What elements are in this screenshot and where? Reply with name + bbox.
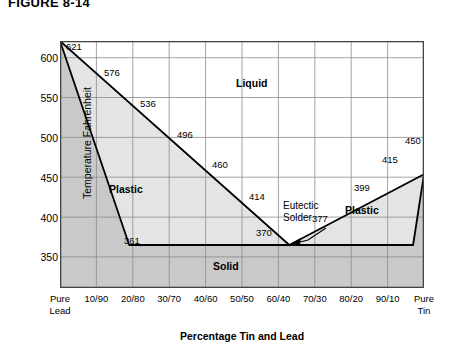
value-label-576: 576 (104, 67, 120, 78)
value-label-450: 450 (405, 135, 421, 146)
figure-title: FIGURE 8-14 (8, 0, 90, 10)
value-label-414: 414 (249, 191, 265, 202)
y-tick-label-400: 400 (18, 213, 58, 224)
region-label-plastic-right: Plastic (345, 204, 379, 216)
value-label-621: 621 (66, 41, 82, 52)
y-tick-label-600: 600 (18, 53, 58, 64)
region-label-plastic-left: Plastic (109, 183, 143, 195)
y-tick-label-450: 450 (18, 173, 58, 184)
value-label-377: 377 (312, 213, 328, 224)
y-axis-title: Temperature Fahrenheit (81, 58, 93, 228)
y-tick-label-550: 550 (18, 93, 58, 104)
region-label-liquid: Liquid (236, 77, 268, 89)
value-label-399: 399 (354, 182, 370, 193)
value-label-361: 361 (124, 235, 140, 246)
phase-diagram-plot: Temperature Fahrenheit 350 400 450 500 5… (60, 41, 424, 288)
value-label-460: 460 (212, 159, 228, 170)
value-label-496: 496 (177, 129, 193, 140)
value-label-370: 370 (256, 227, 272, 238)
x-tick-label-pure-tin: Pure Tin (396, 293, 452, 316)
region-label-solid: Solid (213, 260, 239, 272)
value-label-536: 536 (140, 98, 156, 109)
value-label-415: 415 (382, 154, 398, 165)
y-tick-label-500: 500 (18, 133, 58, 144)
x-axis-title: Percentage Tin and Lead (60, 330, 424, 342)
y-tick-label-350: 350 (18, 252, 58, 263)
